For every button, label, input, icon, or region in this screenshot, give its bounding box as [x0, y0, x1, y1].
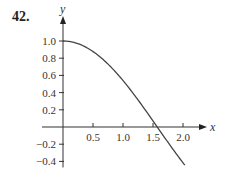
y-axis-label: y: [59, 2, 66, 16]
x-tick-label: 0.5: [86, 131, 100, 143]
y-tick-label: 1.0: [42, 35, 56, 47]
y-tick-label: 0.2: [42, 104, 56, 116]
data-curve: [63, 41, 185, 165]
y-tick-label: −0.2: [36, 138, 56, 150]
y-tick-label: −0.4: [36, 155, 56, 167]
x-tick-label: 1.5: [146, 131, 160, 143]
line-chart: xy0.51.01.52.01.00.80.60.40.2−0.2−0.4: [0, 0, 226, 178]
x-tick-label: 1.0: [116, 131, 130, 143]
y-axis-arrow-icon: [60, 16, 66, 24]
x-axis-arrow-icon: [199, 124, 207, 130]
y-tick-label: 0.4: [42, 87, 56, 99]
x-tick-label: 2.0: [176, 131, 190, 143]
x-axis-label: x: [209, 120, 216, 134]
y-tick-label: 0.8: [42, 52, 56, 64]
y-tick-label: 0.6: [42, 69, 56, 81]
